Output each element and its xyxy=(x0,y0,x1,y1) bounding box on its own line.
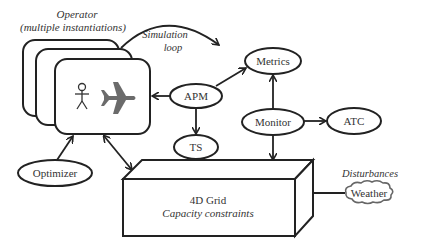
diagram-canvas: Operator (multiple instantiations) Simul… xyxy=(0,0,421,251)
operator-card-front xyxy=(55,59,150,134)
edge-apm-metrics xyxy=(216,68,246,86)
grid-title: 4D Grid xyxy=(190,194,227,206)
node-optimizer: Optimizer xyxy=(18,160,92,186)
grid-subtitle: Capacity constraints xyxy=(162,207,253,219)
node-metrics-label: Metrics xyxy=(256,55,290,67)
edge-optimizer-operator xyxy=(57,136,73,160)
node-atc: ATC xyxy=(327,108,381,134)
node-ts-label: TS xyxy=(190,141,203,153)
operator-title: Operator xyxy=(57,8,99,20)
operator-stack xyxy=(23,40,150,134)
node-monitor: Monitor xyxy=(242,109,304,135)
node-ts: TS xyxy=(174,135,218,159)
simulation-loop-label-1: Simulation xyxy=(142,29,188,40)
simulation-loop-label-2: loop xyxy=(164,42,183,53)
node-weather: Weather xyxy=(346,181,393,204)
edge-operator-grid xyxy=(104,136,132,170)
grid-box: 4D Grid Capacity constraints xyxy=(123,160,313,236)
node-apm-label: APM xyxy=(184,90,208,102)
node-metrics: Metrics xyxy=(245,48,301,74)
operator-subtitle: (multiple instantiations) xyxy=(20,21,126,34)
node-weather-label: Weather xyxy=(351,187,388,199)
node-atc-label: ATC xyxy=(344,115,365,127)
node-apm: APM xyxy=(170,84,222,108)
node-optimizer-label: Optimizer xyxy=(33,167,78,179)
node-monitor-label: Monitor xyxy=(255,116,291,128)
disturbances-label: Disturbances xyxy=(341,168,398,179)
